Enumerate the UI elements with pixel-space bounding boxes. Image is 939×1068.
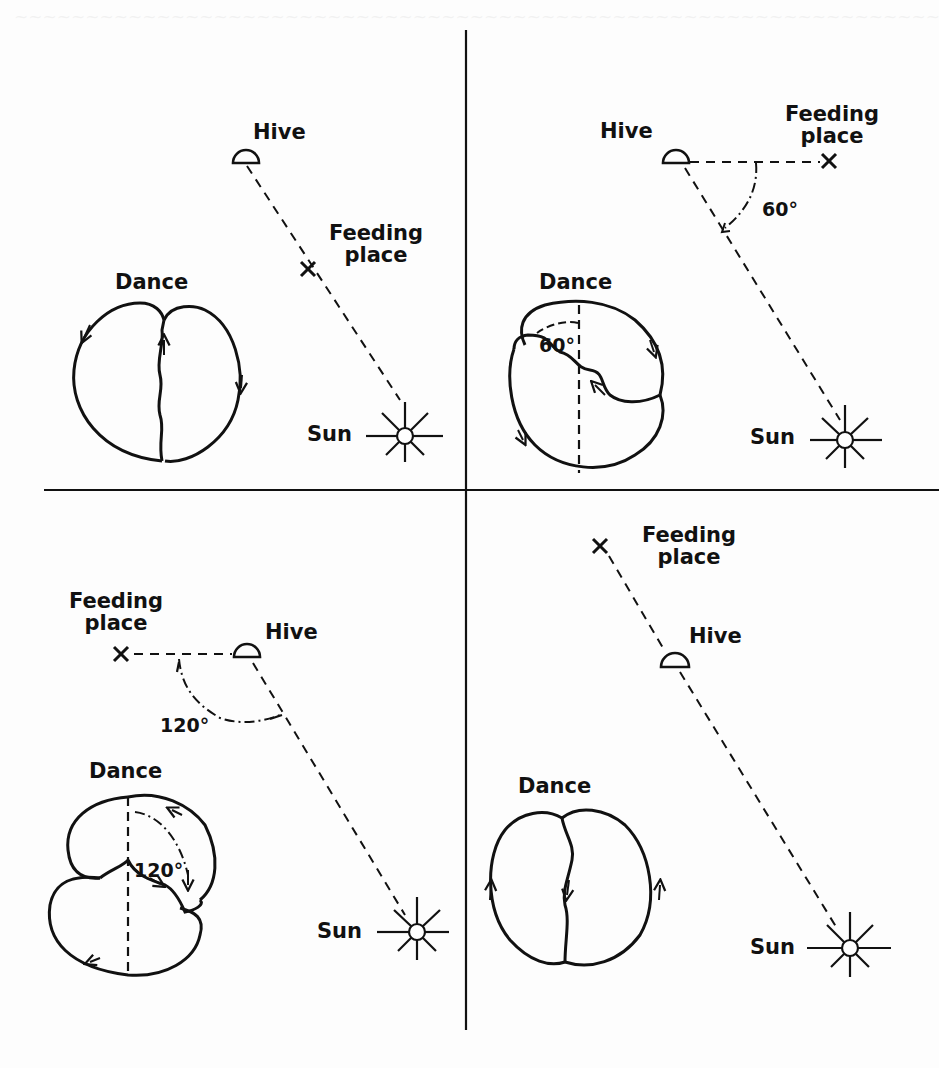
panel-bottom-right [490,539,891,977]
hive-label: Hive [689,625,742,647]
angle-arc [725,163,756,228]
hive-label: Hive [600,120,653,142]
angle-arc [179,659,280,722]
sun-label: Sun [307,423,352,445]
panel-bottom-left [49,644,449,975]
feeding-place-x-icon [593,539,607,553]
hive-label: Hive [253,121,306,143]
sun-icon [810,405,882,468]
diagram-page: ~~~~~~~~~~~~~~~~~~~~~~~~~~~~~~~~~~~~~~~~… [0,0,939,1068]
hive-icon [661,653,689,667]
angle-label: 60° [762,198,798,220]
sun-direction-line [253,663,405,915]
dance-label: Dance [518,775,591,797]
direction-line [247,166,400,400]
dance-figure [510,301,663,467]
hive-icon [234,644,260,657]
hive-label: Hive [265,621,318,643]
feeding-place-x-icon [822,154,836,168]
hive-icon [233,150,259,163]
dance-label: Dance [89,760,162,782]
dance-figure [49,795,215,975]
panel-top-right [510,150,882,473]
feeding-place-label: Feeding place [777,103,887,147]
feeding-direction-line [609,556,663,648]
sun-label: Sun [750,936,795,958]
feeding-place-x-icon [301,262,315,276]
sun-icon [807,912,891,977]
feeding-place-label: Feeding place [56,590,176,634]
dance-figure [74,303,242,461]
feeding-place-label: Feeding place [326,222,426,266]
feeding-place-x-icon [114,647,128,661]
dance-figure [491,810,651,965]
sun-icon [366,402,443,462]
sun-direction-line [680,672,838,930]
feeding-place-label: Feeding place [634,524,744,568]
sun-icon [377,897,449,960]
waggle-dance-diagram [0,0,939,1068]
sun-label: Sun [317,920,362,942]
hive-icon [663,150,689,163]
dance-angle-label: 60° [539,334,575,356]
angle-label: 120° [160,714,209,736]
panel-top-left [74,150,443,462]
dance-label: Dance [539,271,612,293]
dance-angle-label: 120° [134,859,183,881]
dance-angle-arc [537,322,578,333]
dance-label: Dance [115,271,188,293]
sun-label: Sun [750,426,795,448]
